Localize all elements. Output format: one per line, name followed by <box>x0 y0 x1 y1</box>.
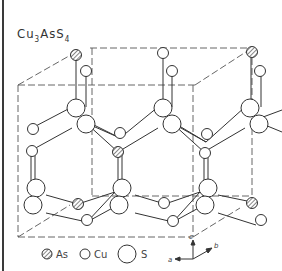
cu-atom <box>202 129 213 140</box>
s-atom <box>27 179 45 197</box>
cu-atom <box>82 215 93 226</box>
cu-atom <box>168 216 179 227</box>
legend-cu-icon <box>80 249 90 259</box>
b-arrow-icon <box>206 248 212 253</box>
s-atom <box>154 99 172 117</box>
as-atom <box>247 198 258 209</box>
s-atom <box>67 99 85 117</box>
cu-atom <box>28 124 39 135</box>
cu-atom <box>159 198 170 209</box>
as-atom <box>113 147 124 158</box>
s-atom <box>199 179 217 197</box>
s-atom <box>24 196 42 214</box>
s-atom <box>163 115 181 133</box>
cu-atom <box>158 48 169 59</box>
cu-atom <box>200 148 211 159</box>
cu-atom <box>27 146 38 157</box>
s-atom <box>113 179 131 197</box>
legend-cu-label: Cu <box>94 249 107 260</box>
s-atom <box>110 196 128 214</box>
cu-atom <box>255 66 266 77</box>
axis-triad: c a b <box>168 233 219 264</box>
cu-atom <box>256 215 267 226</box>
as-atom <box>247 47 258 58</box>
s-atom <box>241 99 259 117</box>
crystal-structure-diagram: As Cu S c a b <box>0 0 282 271</box>
as-atom <box>71 50 82 61</box>
legend-as-icon <box>42 249 52 259</box>
s-atom <box>77 115 95 133</box>
axis-c-label: c <box>189 233 193 241</box>
a-arrow-icon <box>175 257 180 261</box>
s-atom <box>196 196 214 214</box>
s-atom <box>250 115 268 133</box>
unit-cell-edges <box>18 48 252 237</box>
legend-as-label: As <box>56 249 68 260</box>
axis-a-label: a <box>168 256 172 264</box>
cu-atom <box>81 66 92 77</box>
axis-b-label: b <box>214 242 219 250</box>
bonds <box>31 51 282 225</box>
legend-s-label: S <box>141 249 147 260</box>
legend: As Cu S <box>42 245 147 263</box>
legend-s-icon <box>118 245 136 263</box>
cu-atom <box>167 66 178 77</box>
cu-atom <box>115 128 126 139</box>
as-atom <box>73 199 84 210</box>
